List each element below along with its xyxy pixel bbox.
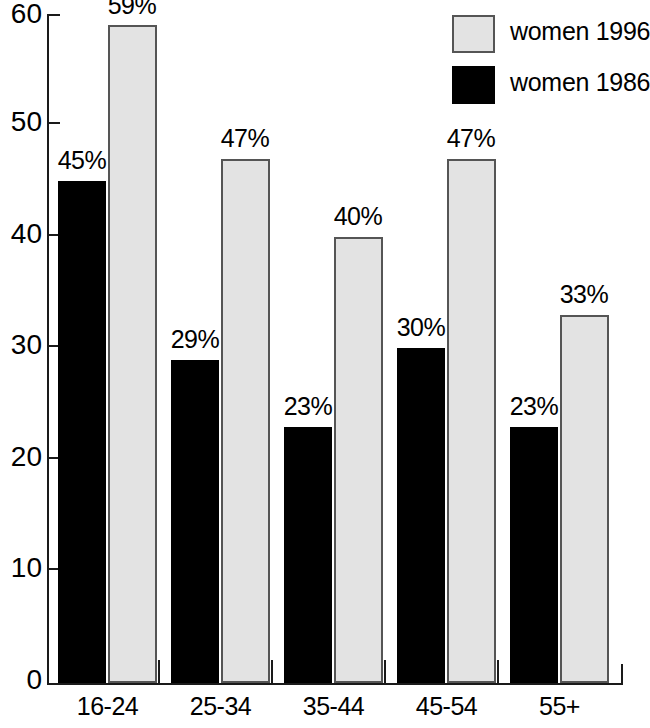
bar-1986-45-54 [397, 348, 445, 683]
legend-entry-women-1986: women 1986 [452, 64, 630, 115]
x-category-label-35-44: 35-44 [276, 694, 391, 719]
bar-1996-45-54 [447, 159, 496, 683]
legend-swatch-women-1986 [452, 66, 495, 104]
bar-value-1996-55plus: 33% [554, 282, 614, 307]
x-category-label-45-54: 45-54 [389, 694, 504, 719]
bar-value-1986-35-44: 23% [278, 394, 338, 419]
x-category-label-25-34: 25-34 [163, 694, 278, 719]
x-category-label-16-24: 16-24 [50, 694, 165, 719]
y-tick-label-10: 10 [0, 554, 42, 582]
y-tick-label-20: 20 [0, 443, 42, 471]
bar-1986-25-34 [171, 360, 219, 683]
bar-value-1996-35-44: 40% [328, 204, 388, 229]
x-axis-line [47, 683, 623, 685]
legend: women 1996 women 1986 [452, 13, 630, 115]
x-axis-tick-2 [271, 660, 273, 683]
x-category-label-55plus: 55+ [502, 694, 617, 719]
bar-value-1996-16-24: 59% [102, 0, 162, 18]
bar-value-1986-45-54: 30% [391, 315, 451, 340]
legend-label-women-1996: women 1996 [510, 19, 650, 44]
bar-1996-25-34 [221, 159, 270, 683]
bar-1996-35-44 [334, 237, 383, 683]
legend-entry-women-1996: women 1996 [452, 13, 630, 64]
legend-label-women-1986: women 1986 [510, 70, 650, 95]
bar-value-1986-55plus: 23% [504, 394, 564, 419]
x-axis-tick-3 [384, 660, 386, 683]
bar-value-1986-16-24: 45% [52, 148, 112, 173]
bar-1986-55plus [510, 427, 558, 683]
bar-value-1996-25-34: 47% [215, 126, 275, 151]
y-tick-label-60: 60 [0, 0, 42, 28]
y-tick-label-40: 40 [0, 220, 42, 248]
bar-value-1986-25-34: 29% [165, 327, 225, 352]
legend-swatch-women-1996 [452, 15, 495, 53]
bar-value-1996-45-54: 47% [441, 126, 501, 151]
bar-1986-35-44 [284, 427, 332, 683]
y-tick-label-30: 30 [0, 331, 42, 359]
y-tick-label-50: 50 [0, 108, 42, 136]
x-axis-right-cap [621, 664, 623, 685]
y-tick-label-0: 0 [0, 666, 42, 694]
x-axis-tick-1 [158, 660, 160, 683]
bar-1996-16-24 [108, 25, 157, 683]
bar-1986-16-24 [58, 181, 106, 683]
bar-1996-55plus [560, 315, 609, 683]
x-axis-tick-4 [497, 660, 499, 683]
y-axis-line [47, 14, 49, 684]
